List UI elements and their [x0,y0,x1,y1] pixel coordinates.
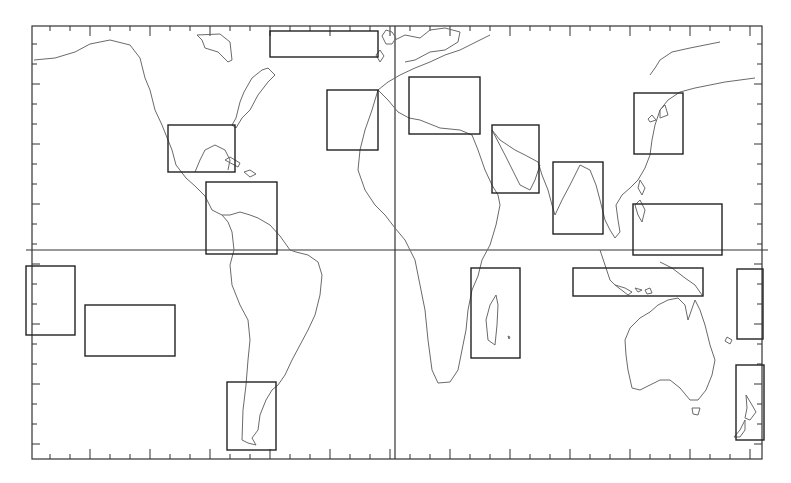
coast-south-america [222,212,322,445]
region-box-maritime-southeast-asia[interactable] [633,204,722,255]
coast-new-zealand [734,395,756,437]
region-box-south-pacific[interactable] [85,305,175,356]
coast-europe [376,28,490,90]
region-box-india[interactable] [553,162,603,234]
region-box-east-asia[interactable] [634,93,683,154]
region-box-mediterranean[interactable] [409,77,480,134]
axis-ticks [32,26,762,459]
map-canvas [0,0,791,483]
coast-australia [625,298,715,415]
world-map [0,0,791,483]
region-box-northwest-africa[interactable] [327,90,378,150]
region-box-northern-south-america[interactable] [206,182,277,254]
map-frame [32,26,762,459]
region-box-north-atlantic[interactable] [270,31,378,57]
region-box-eastern-pacific-west[interactable] [26,266,75,335]
coast-madagascar [486,295,498,345]
region-box-gulf-of-mexico[interactable] [168,125,235,172]
coast-north-america [34,34,275,250]
coast-islands [508,336,732,344]
coast-asia [492,42,755,238]
region-box-patagonia[interactable] [227,382,276,450]
